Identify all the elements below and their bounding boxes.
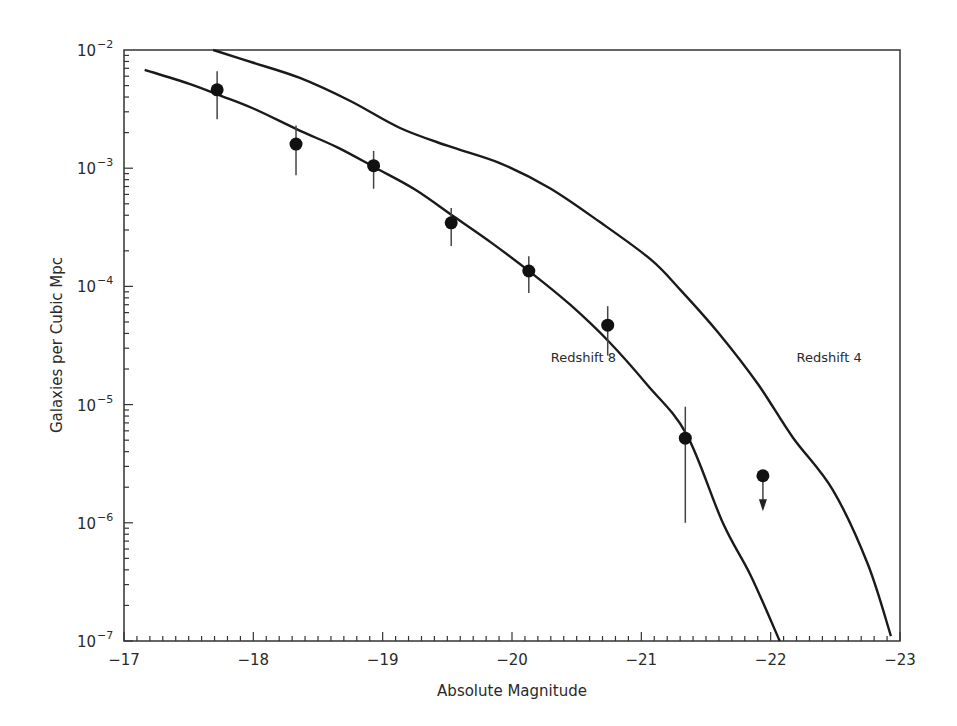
- data-point: [522, 264, 535, 277]
- down-arrow-icon: [759, 499, 767, 511]
- x-tick-label: −19: [367, 651, 399, 669]
- data-point: [211, 83, 224, 96]
- curve-label: Redshift 8: [551, 350, 616, 365]
- luminosity-function-chart: −17−18−19−20−21−22−23 10−210−310−410−510…: [0, 0, 957, 726]
- x-tick-label: −18: [238, 651, 270, 669]
- y-tick-exponent: −4: [97, 274, 113, 287]
- y-axis-tick-labels: 10−210−310−410−510−610−7: [77, 38, 113, 651]
- y-tick-label: 10: [77, 42, 96, 60]
- y-tick-label: 10: [77, 515, 96, 533]
- x-tick-label: −21: [626, 651, 658, 669]
- y-axis-ticks: [124, 55, 133, 641]
- y-tick-label: 10: [77, 633, 96, 651]
- x-axis-ticks: [124, 632, 900, 641]
- curve-redshift-8: [145, 70, 780, 641]
- plot-frame: [124, 50, 900, 641]
- y-tick-exponent: −2: [97, 38, 113, 51]
- x-tick-label: −17: [108, 651, 140, 669]
- upper-limit-point: [756, 469, 769, 482]
- x-tick-label: −22: [755, 651, 787, 669]
- y-tick-label: 10: [77, 397, 96, 415]
- y-tick-label: 10: [77, 160, 96, 178]
- x-axis-title: Absolute Magnitude: [437, 682, 587, 700]
- curve-label: Redshift 4: [797, 350, 862, 365]
- y-tick-exponent: −5: [97, 393, 113, 406]
- data-point: [290, 138, 303, 151]
- data-point: [679, 432, 692, 445]
- y-tick-exponent: −3: [97, 156, 113, 169]
- y-tick-exponent: −7: [97, 629, 113, 642]
- data-point: [367, 159, 380, 172]
- y-axis-title: Galaxies per Cubic Mpc: [48, 257, 66, 433]
- x-axis-tick-labels: −17−18−19−20−21−22−23: [108, 651, 916, 669]
- curve-annotations: Redshift 8Redshift 4: [551, 350, 862, 365]
- data-point: [601, 319, 614, 332]
- y-tick-exponent: −6: [97, 511, 113, 524]
- data-point: [445, 216, 458, 229]
- x-tick-label: −20: [496, 651, 528, 669]
- model-curves: [145, 50, 891, 641]
- y-tick-label: 10: [77, 278, 96, 296]
- x-tick-label: −23: [884, 651, 916, 669]
